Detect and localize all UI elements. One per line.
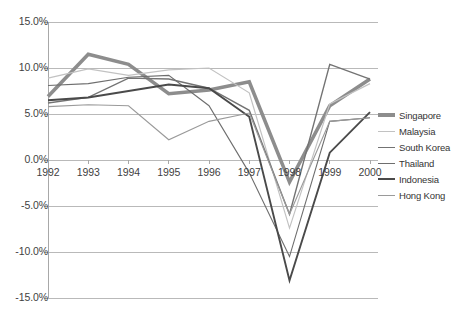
y-axis-tick-label: 10.0% <box>4 62 48 73</box>
y-axis-labels: 15.0%10.0%5.0%0.0%-5.0%-10.0%-15.0% <box>0 0 48 317</box>
y-axis-tick-label: 15.0% <box>4 16 48 27</box>
x-axis-tick-label: 1997 <box>229 165 269 179</box>
legend-item-singapore[interactable]: Singapore <box>378 107 458 123</box>
legend-line-swatch-icon <box>378 158 395 168</box>
legend-item-indonesia[interactable]: Indonesia <box>378 171 458 187</box>
legend-item-hong-kong[interactable]: Hong Kong <box>378 187 458 203</box>
y-axis-tick-label: 5.0% <box>4 108 48 119</box>
chart-legend: SingaporeMalaysiaSouth KoreaThailandIndo… <box>378 107 458 203</box>
x-axis-tick-label: 1996 <box>189 165 229 179</box>
legend-item-malaysia[interactable]: Malaysia <box>378 123 458 139</box>
legend-item-label: Thailand <box>399 158 434 169</box>
x-axis-tick-label: 1992 <box>28 165 68 179</box>
legend-item-label: Singapore <box>399 110 441 121</box>
legend-line-swatch-icon <box>378 190 395 200</box>
x-axis-tick-label: 1994 <box>109 165 149 179</box>
y-axis-tick-label: -10.0% <box>4 246 48 257</box>
line-chart: 15.0%10.0%5.0%0.0%-5.0%-10.0%-15.0% 1992… <box>0 0 458 317</box>
legend-line-swatch-icon <box>378 142 395 152</box>
gridlines <box>48 22 378 298</box>
legend-line-swatch-icon <box>378 174 395 184</box>
legend-item-label: Hong Kong <box>399 190 445 201</box>
x-axis-tick-label: 1998 <box>270 165 310 179</box>
y-axis-tick-label: -15.0% <box>4 292 48 303</box>
y-axis-tick-label: 0.0% <box>4 154 48 165</box>
legend-item-label: South Korea <box>399 142 450 153</box>
y-axis-tick-label: -5.0% <box>4 200 48 211</box>
x-axis-tick-label: 1999 <box>310 165 350 179</box>
legend-line-swatch-icon <box>378 110 395 120</box>
legend-item-label: Indonesia <box>399 174 439 185</box>
x-axis-labels: 199219931994199519961997199819992000 <box>48 165 370 181</box>
legend-item-thailand[interactable]: Thailand <box>378 155 458 171</box>
legend-item-label: Malaysia <box>399 126 435 137</box>
x-axis-tick-label: 1993 <box>68 165 108 179</box>
x-axis-tick-label: 1995 <box>149 165 189 179</box>
legend-line-swatch-icon <box>378 126 395 136</box>
legend-item-south-korea[interactable]: South Korea <box>378 139 458 155</box>
